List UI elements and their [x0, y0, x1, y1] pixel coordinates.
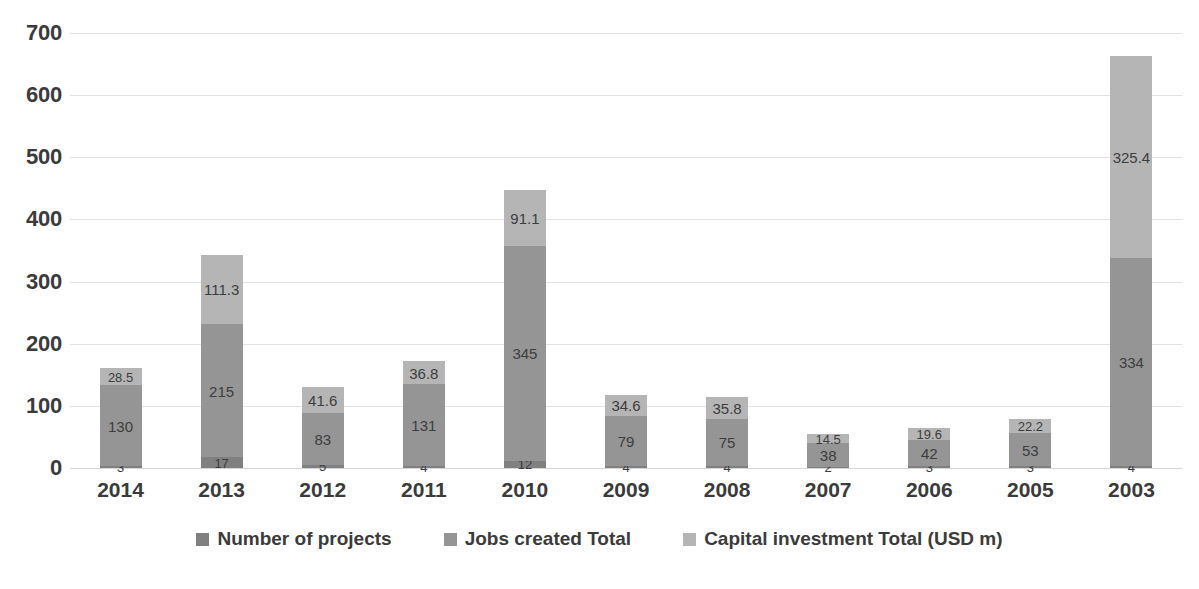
bar-value-label: 19.6	[908, 428, 950, 441]
y-axis-tick-label: 600	[0, 82, 62, 108]
y-axis-tick-label: 200	[0, 331, 62, 357]
bar-group[interactable]: 23814.5	[807, 33, 849, 468]
bar-value-label: 345	[504, 346, 546, 361]
x-axis-tick-label: 2007	[778, 478, 878, 502]
bar-value-label: 111.3	[201, 282, 243, 297]
y-axis-tick-label: 400	[0, 206, 62, 232]
bar-group[interactable]: 4334325.4	[1110, 33, 1152, 468]
y-axis: 7006005004003002001000	[0, 0, 62, 589]
bar-group[interactable]: 35322.2	[1009, 33, 1051, 468]
y-axis-tick-label: 300	[0, 269, 62, 295]
bar-value-label: 75	[706, 435, 748, 450]
stacked-bar-chart: 7006005004003002001000 313028.517215111.…	[0, 0, 1199, 589]
bar-value-label: 79	[605, 434, 647, 449]
bar-value-label: 41.6	[302, 393, 344, 408]
bar-group[interactable]: 47535.8	[706, 33, 748, 468]
bar-value-label: 17	[201, 457, 243, 470]
bar-value-label: 334	[1110, 355, 1152, 370]
legend-label: Number of projects	[217, 528, 391, 550]
bar-value-label: 38	[807, 448, 849, 463]
legend-swatch-icon	[196, 533, 209, 546]
plot-area: 313028.517215111.358341.6413136.81234591…	[70, 33, 1182, 468]
bar-value-label: 53	[1009, 443, 1051, 458]
bar-value-label: 83	[302, 432, 344, 447]
x-axis-tick-label: 2013	[172, 478, 272, 502]
bar-value-label: 130	[100, 419, 142, 434]
bar-value-label: 91.1	[504, 211, 546, 226]
bar-group[interactable]: 413136.8	[403, 33, 445, 468]
x-axis-tick-label: 2014	[71, 478, 171, 502]
legend-label: Jobs created Total	[465, 528, 631, 550]
bar-group[interactable]: 47934.6	[605, 33, 647, 468]
chart-legend: Number of projectsJobs created TotalCapi…	[0, 528, 1199, 550]
legend-item[interactable]: Number of projects	[196, 528, 391, 550]
bar-group[interactable]: 34219.6	[908, 33, 950, 468]
x-axis-tick-label: 2011	[374, 478, 474, 502]
legend-label: Capital investment Total (USD m)	[704, 528, 1002, 550]
x-axis-tick-label: 2010	[475, 478, 575, 502]
bar-value-label: 42	[908, 446, 950, 461]
x-axis-tick-label: 2003	[1081, 478, 1181, 502]
bar-group[interactable]: 17215111.3	[201, 33, 243, 468]
y-axis-tick-label: 0	[0, 455, 62, 481]
bar-value-label: 131	[403, 418, 445, 433]
legend-swatch-icon	[683, 533, 696, 546]
bar-value-label: 35.8	[706, 401, 748, 416]
x-axis-tick-label: 2012	[273, 478, 373, 502]
bar-group[interactable]: 1234591.1	[504, 33, 546, 468]
y-axis-tick-label: 700	[0, 20, 62, 46]
x-axis-tick-label: 2005	[980, 478, 1080, 502]
bar-value-label: 14.5	[807, 433, 849, 446]
bar-group[interactable]: 58341.6	[302, 33, 344, 468]
x-axis-tick-label: 2009	[576, 478, 676, 502]
legend-item[interactable]: Capital investment Total (USD m)	[683, 528, 1002, 550]
x-axis: 2014201320122011201020092008200720062005…	[70, 478, 1182, 512]
bar-value-label: 28.5	[100, 371, 142, 384]
bar-value-label: 325.4	[1110, 150, 1152, 165]
bar-value-label: 215	[201, 384, 243, 399]
x-axis-tick-label: 2008	[677, 478, 777, 502]
legend-swatch-icon	[444, 533, 457, 546]
bar-value-label: 36.8	[403, 366, 445, 381]
x-axis-tick-label: 2006	[879, 478, 979, 502]
bar-group[interactable]: 313028.5	[100, 33, 142, 468]
legend-item[interactable]: Jobs created Total	[444, 528, 631, 550]
bar-value-label: 34.6	[605, 398, 647, 413]
y-axis-tick-label: 100	[0, 393, 62, 419]
bar-value-label: 22.2	[1009, 420, 1051, 433]
y-axis-tick-label: 500	[0, 144, 62, 170]
